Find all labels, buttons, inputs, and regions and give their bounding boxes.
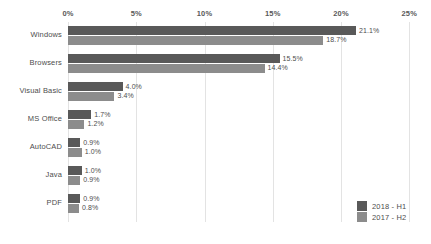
x-axis: 0%5%10%15%20%25% — [0, 9, 431, 21]
bar-group: Visual Basic4.0%3.4% — [0, 82, 431, 103]
bar-value-label: 0.9% — [83, 195, 99, 202]
legend-item[interactable]: 2018 - H1 — [357, 201, 406, 211]
bar-series-2017-h2 — [68, 36, 323, 45]
category-label: Windows — [31, 30, 62, 39]
bar-series-2017-h2 — [68, 92, 114, 101]
category-label: Java — [46, 170, 62, 179]
category-label: MS Office — [28, 114, 62, 123]
category-label: Browsers — [30, 58, 62, 67]
category-label: AutoCAD — [30, 142, 62, 151]
x-tick-label: 15% — [265, 9, 281, 18]
bar-value-label: 0.8% — [82, 204, 98, 211]
bar-group: Windows21.1%18.7% — [0, 26, 431, 47]
bar-series-2018-h1 — [68, 54, 280, 63]
legend-swatch-icon — [357, 201, 367, 211]
bar-series-2018-h1 — [68, 82, 123, 91]
bar-series-2017-h2 — [68, 204, 79, 213]
legend-label: 2018 - H1 — [372, 202, 406, 211]
bar-value-label: 4.0% — [126, 83, 142, 90]
bar-value-label: 1.0% — [85, 148, 101, 155]
bar-chart: 0%5%10%15%20%25% Windows21.1%18.7%Browse… — [0, 0, 431, 244]
bar-group: AutoCAD0.9%1.0% — [0, 138, 431, 159]
bar-series-2018-h1 — [68, 138, 80, 147]
bar-series-2017-h2 — [68, 64, 265, 73]
bar-value-label: 1.0% — [85, 167, 101, 174]
x-tick-label: 25% — [401, 9, 417, 18]
category-label: Visual Basic — [19, 86, 62, 95]
bar-value-label: 14.4% — [268, 64, 288, 71]
bar-series-2017-h2 — [68, 176, 80, 185]
bar-series-2018-h1 — [68, 110, 91, 119]
category-label: PDF — [47, 198, 62, 207]
legend-swatch-icon — [357, 212, 367, 222]
bar-group: Browsers15.5%14.4% — [0, 54, 431, 75]
bar-value-label: 3.4% — [117, 92, 133, 99]
bar-series-2018-h1 — [68, 166, 82, 175]
bar-group: MS Office1.7%1.2% — [0, 110, 431, 131]
plot-area: Windows21.1%18.7%Browsers15.5%14.4%Visua… — [0, 22, 431, 222]
x-tick-label: 10% — [197, 9, 213, 18]
bar-series-2018-h1 — [68, 194, 80, 203]
legend-label: 2017 - H2 — [372, 213, 406, 222]
x-tick-label: 20% — [333, 9, 349, 18]
legend-item[interactable]: 2017 - H2 — [357, 212, 406, 222]
bar-value-label: 15.5% — [283, 55, 303, 62]
bar-series-2017-h2 — [68, 120, 84, 129]
bar-value-label: 0.9% — [83, 176, 99, 183]
chart-legend: 2018 - H12017 - H2 — [357, 201, 429, 225]
bar-value-label: 0.9% — [83, 139, 99, 146]
x-tick-label: 0% — [62, 9, 73, 18]
bar-group: Java1.0%0.9% — [0, 166, 431, 187]
bar-series-2018-h1 — [68, 26, 356, 35]
bar-value-label: 1.7% — [94, 111, 110, 118]
bar-value-label: 21.1% — [359, 27, 379, 34]
bar-value-label: 18.7% — [326, 36, 346, 43]
x-tick-label: 5% — [131, 9, 142, 18]
bar-value-label: 1.2% — [87, 120, 103, 127]
bar-series-2017-h2 — [68, 148, 82, 157]
